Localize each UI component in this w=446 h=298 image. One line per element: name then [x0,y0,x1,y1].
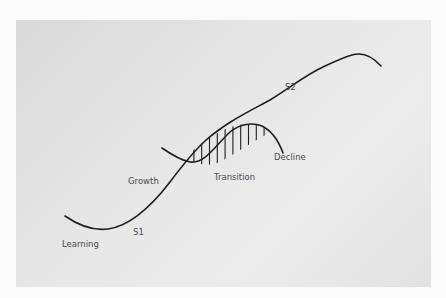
label-transition: Transition [213,172,255,182]
s2-hump-curve [162,124,283,162]
label-s2: S2 [285,82,296,92]
label-s1: S1 [133,227,144,237]
s1-curve [65,54,381,229]
s-curve-diagram: Learning S1 Growth Transition Decline S2 [0,0,446,298]
label-learning: Learning [62,239,99,249]
label-growth: Growth [128,176,159,186]
label-decline: Decline [274,152,306,162]
